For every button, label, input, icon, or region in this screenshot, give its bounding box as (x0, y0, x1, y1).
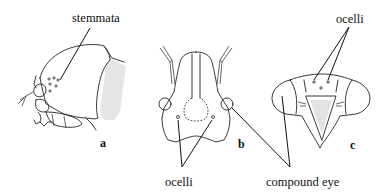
antenna-base-a (34, 84, 46, 97)
leader-ocelli-b-2 (182, 120, 212, 167)
compound-eye-b-left (159, 98, 171, 110)
label-stemmata: stemmata (72, 11, 120, 25)
ocellus-c-right (327, 81, 329, 83)
ocellus-c-left (313, 81, 315, 83)
frons-outline (184, 98, 208, 121)
stemmata-cluster (48, 77, 59, 92)
neck-stipple (100, 58, 126, 120)
insect-head-diagram: stemmata a ocelli b (0, 0, 386, 193)
panel-label-c: c (350, 138, 356, 152)
label-ocelli-b: ocelli (165, 175, 193, 189)
panel-a: stemmata a (18, 11, 126, 150)
leader-ocelli-b-1 (178, 120, 182, 167)
compound-eye-b-right (221, 98, 233, 110)
panel-label-b: b (238, 137, 245, 151)
ocellus-c-median (320, 87, 322, 89)
antenna-b-right (217, 46, 232, 84)
antenna-a (18, 92, 33, 106)
leader-stemmata (60, 28, 90, 80)
label-compound-eye: compound eye (266, 175, 340, 189)
panel-b: ocelli b (159, 46, 245, 189)
panel-label-a: a (100, 136, 106, 150)
label-ocelli-c: ocelli (336, 12, 364, 26)
panel-c: ocelli c (272, 12, 370, 152)
ocellus-b-left (177, 116, 180, 119)
diagram-canvas: stemmata a ocelli b (0, 0, 386, 193)
antenna-b-left (160, 46, 175, 84)
head-capsule-a (40, 45, 110, 119)
head-capsule-b (162, 52, 230, 142)
ocellus-b-right (212, 116, 215, 119)
mandible-a (35, 99, 48, 112)
leader-compound-eye-c (282, 96, 290, 167)
